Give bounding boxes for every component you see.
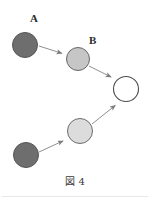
arrow-b-to-empty (89, 66, 111, 77)
node-b-medium-circle (67, 48, 90, 71)
arrow-light-to-empty (92, 105, 115, 124)
node-dark-circle-lower (14, 143, 39, 168)
node-label-b: B (89, 35, 97, 46)
arrow-dark-to-light (39, 141, 63, 152)
diagram-canvas (0, 0, 150, 199)
nodes-layer (13, 33, 139, 168)
arrow-a-to-b (39, 46, 62, 53)
bottom-divider (2, 196, 148, 197)
node-label-a: A (30, 13, 38, 24)
figure-container: A B 図 4 (0, 0, 150, 199)
node-empty-white-circle (114, 77, 139, 102)
node-light-circle (68, 119, 93, 144)
node-a-dark-circle (13, 33, 38, 58)
figure-caption: 図 4 (0, 177, 150, 187)
